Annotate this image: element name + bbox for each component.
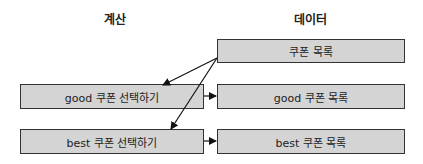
arrow-coupon-to-select-best — [171, 58, 217, 129]
arrows — [0, 0, 423, 164]
